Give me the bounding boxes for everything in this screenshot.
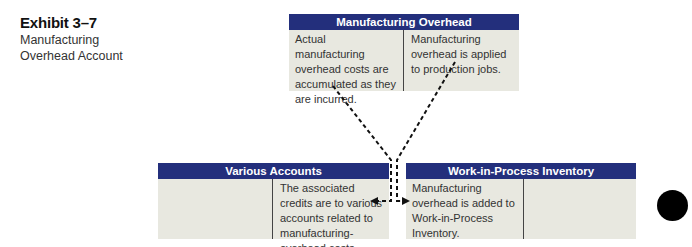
connector-to-various-accounts [333,86,391,201]
connector-to-wip-inventory [397,62,455,201]
connector-lines [0,0,692,247]
page-marker-dot [657,190,688,221]
